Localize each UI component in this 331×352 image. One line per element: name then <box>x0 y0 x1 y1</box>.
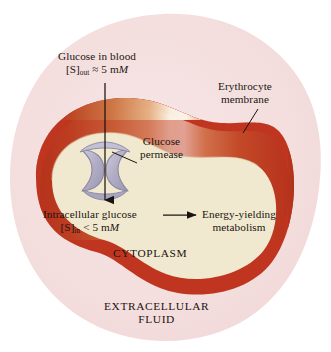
extracellular-fluid-line1: EXTRACELLULAR <box>104 300 209 313</box>
erythrocyte-membrane-line2: membrane <box>218 93 272 106</box>
s-out-subscript: out <box>80 68 89 77</box>
glucose-permease-line1: Glucose <box>140 135 183 148</box>
s-in-relation: < 5 m <box>83 221 110 233</box>
label-extracellular-fluid: EXTRACELLULAR FLUID <box>104 300 209 326</box>
glucose-in-blood-concentration: [S]out ≈ 5 mM <box>58 63 136 77</box>
s-out-unit: M <box>119 63 128 75</box>
extracellular-fluid-line2: FLUID <box>104 313 209 326</box>
erythrocyte-membrane-line1: Erythrocyte <box>218 80 272 93</box>
energy-metabolism-line2: metabolism <box>202 221 276 234</box>
s-in-subscript: in <box>74 226 80 235</box>
label-intracellular-glucose: Intracellular glucose [S]in < 5 mM <box>43 208 137 235</box>
label-erythrocyte-membrane: Erythrocyte membrane <box>218 80 272 105</box>
s-out-relation: ≈ 5 m <box>92 63 119 75</box>
intracellular-glucose-concentration: [S]in < 5 mM <box>43 221 137 235</box>
erythrocyte-glucose-transport-figure: Glucose in blood [S]out ≈ 5 mM Glucose p… <box>0 0 331 352</box>
intracellular-glucose-line1: Intracellular glucose <box>43 208 137 221</box>
label-energy-yielding-metabolism: Energy-yielding metabolism <box>202 208 276 233</box>
s-in-unit: M <box>110 221 119 233</box>
label-glucose-permease: Glucose permease <box>140 135 183 160</box>
s-in-bracket: [S] <box>60 221 74 233</box>
glucose-in-blood-line1: Glucose in blood <box>58 50 136 63</box>
glucose-permease-line2: permease <box>140 148 183 161</box>
label-glucose-in-blood: Glucose in blood [S]out ≈ 5 mM <box>58 50 136 77</box>
energy-metabolism-line1: Energy-yielding <box>202 208 276 221</box>
s-out-bracket: [S] <box>66 63 80 75</box>
label-cytoplasm: CYTOPLASM <box>113 247 187 260</box>
